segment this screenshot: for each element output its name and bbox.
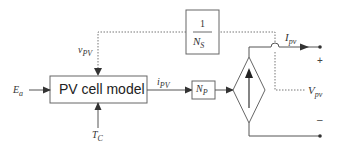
ns-denominator: NS — [193, 36, 204, 50]
np-gain-label: NP — [196, 84, 208, 97]
positive-output-wire — [249, 43, 319, 57]
ea-label: Ea — [13, 85, 23, 98]
tc-label: TC — [92, 130, 103, 143]
ipv-output-arrowhead-icon — [300, 44, 309, 51]
ipv-output-label: Ipv — [285, 32, 296, 46]
plus-terminal-sign: + — [317, 56, 323, 66]
vpv-input-label: vPV — [78, 45, 92, 58]
ns-numerator: 1 — [186, 18, 219, 29]
vpv-output-label: Vpv — [308, 85, 322, 99]
positive-terminal — [318, 45, 322, 49]
minus-terminal-sign: – — [317, 115, 323, 125]
negative-output-wire — [249, 123, 319, 136]
ipv-internal-label: iPV — [157, 77, 170, 90]
pv-array-block-diagram — [0, 0, 337, 148]
pv-cell-model-label: PV cell model — [59, 82, 145, 96]
vpv-arrowhead-icon — [94, 68, 102, 76]
negative-terminal — [318, 134, 322, 138]
